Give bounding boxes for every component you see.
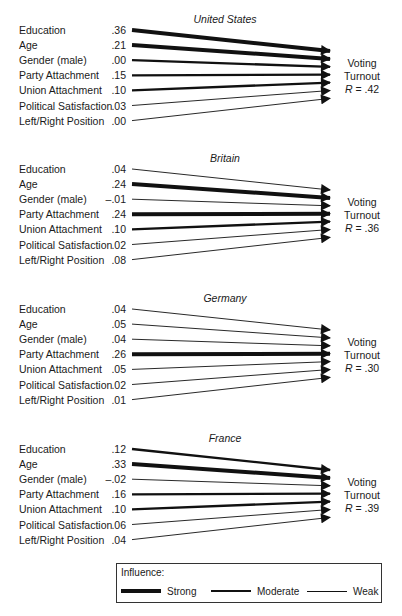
coefficient-value: .03 bbox=[96, 100, 126, 112]
legend: Influence: Strong Moderate Weak bbox=[116, 563, 382, 603]
coefficient-value: .21 bbox=[96, 39, 126, 51]
path-arrow bbox=[132, 479, 330, 486]
predictor-label: Age bbox=[19, 178, 38, 190]
outcome-label-line2: Turnout bbox=[332, 70, 392, 83]
coefficient-value: .04 bbox=[96, 534, 126, 546]
legend-title: Influence: bbox=[121, 567, 164, 578]
predictor-label: Union Attachment bbox=[19, 223, 102, 235]
coefficient-value: .10 bbox=[96, 223, 126, 235]
path-arrow bbox=[132, 83, 330, 91]
predictor-label: Union Attachment bbox=[19, 363, 102, 375]
r-value: R = .42 bbox=[332, 83, 392, 96]
outcome-node: VotingTurnoutR = .36 bbox=[332, 196, 392, 235]
panel-title: United States bbox=[155, 13, 295, 25]
coefficient-value: .04 bbox=[96, 303, 126, 315]
path-arrow bbox=[132, 230, 330, 245]
predictor-label: Education bbox=[19, 24, 66, 36]
path-arrow bbox=[132, 91, 330, 106]
r-value: R = .36 bbox=[332, 222, 392, 235]
legend-item-weak: Weak bbox=[307, 585, 378, 597]
coefficient-value: .15 bbox=[96, 69, 126, 81]
predictor-label: Union Attachment bbox=[19, 84, 102, 96]
coefficient-value: .02 bbox=[96, 239, 126, 251]
panel-title: Britain bbox=[155, 152, 295, 164]
panel-title: Germany bbox=[155, 292, 295, 304]
predictor-label: Gender (male) bbox=[19, 193, 87, 205]
coefficient-value: .26 bbox=[96, 348, 126, 360]
predictor-label: Party Attachment bbox=[19, 69, 99, 81]
coefficient-value: .04 bbox=[96, 333, 126, 345]
coefficient-value: .05 bbox=[96, 318, 126, 330]
legend-item-moderate: Moderate bbox=[211, 585, 299, 597]
outcome-node: VotingTurnoutR = .39 bbox=[332, 476, 392, 515]
coefficient-value: .16 bbox=[96, 488, 126, 500]
path-arrow bbox=[132, 75, 330, 76]
path-arrow bbox=[132, 502, 330, 510]
predictor-label: Left/Right Position bbox=[19, 534, 104, 546]
path-arrow bbox=[132, 377, 330, 399]
panel-title: France bbox=[155, 432, 295, 444]
predictor-label: Age bbox=[19, 458, 38, 470]
predictor-label: Gender (male) bbox=[19, 333, 87, 345]
predictor-label: Left/Right Position bbox=[19, 115, 104, 127]
path-arrow bbox=[132, 184, 330, 198]
path-arrow bbox=[132, 60, 330, 67]
predictor-label: Left/Right Position bbox=[19, 394, 104, 406]
predictor-label: Education bbox=[19, 163, 66, 175]
path-arrow bbox=[132, 362, 330, 370]
coefficient-value: .10 bbox=[96, 503, 126, 515]
path-arrow bbox=[132, 370, 330, 385]
coefficient-value: .10 bbox=[96, 84, 126, 96]
r-value: R = .39 bbox=[332, 502, 392, 515]
path-arrow bbox=[132, 222, 330, 230]
path-arrow bbox=[132, 339, 330, 346]
coefficient-value: .05 bbox=[96, 363, 126, 375]
predictor-label: Left/Right Position bbox=[19, 254, 104, 266]
coefficient-value: .00 bbox=[96, 54, 126, 66]
coefficient-value: .01 bbox=[96, 394, 126, 406]
path-arrow bbox=[132, 98, 330, 120]
weak-line-icon bbox=[307, 591, 347, 592]
predictor-label: Party Attachment bbox=[19, 208, 99, 220]
coefficient-value: .24 bbox=[96, 208, 126, 220]
coefficient-value: .12 bbox=[96, 443, 126, 455]
predictor-label: Age bbox=[19, 39, 38, 51]
coefficient-value: .00 bbox=[96, 115, 126, 127]
coefficient-value: .02 bbox=[96, 379, 126, 391]
path-arrow bbox=[132, 494, 330, 495]
outcome-label-line1: Voting bbox=[332, 196, 392, 209]
coefficient-value: .36 bbox=[96, 24, 126, 36]
predictor-label: Gender (male) bbox=[19, 54, 87, 66]
legend-item-strong: Strong bbox=[121, 585, 196, 597]
outcome-label-line1: Voting bbox=[332, 57, 392, 70]
coefficient-value: –.01 bbox=[96, 193, 126, 205]
path-arrow bbox=[132, 237, 330, 259]
legend-label-weak: Weak bbox=[353, 586, 378, 597]
path-arrow bbox=[132, 517, 330, 539]
predictor-label: Education bbox=[19, 443, 66, 455]
predictor-label: Party Attachment bbox=[19, 348, 99, 360]
outcome-label-line2: Turnout bbox=[332, 209, 392, 222]
path-arrow bbox=[132, 354, 330, 355]
outcome-node: VotingTurnoutR = .42 bbox=[332, 57, 392, 96]
predictor-label: Age bbox=[19, 318, 38, 330]
r-value: R = .30 bbox=[332, 362, 392, 375]
predictor-label: Education bbox=[19, 303, 66, 315]
legend-label-strong: Strong bbox=[167, 586, 196, 597]
outcome-label-line2: Turnout bbox=[332, 349, 392, 362]
predictor-label: Party Attachment bbox=[19, 488, 99, 500]
path-arrow bbox=[132, 199, 330, 206]
arrows-layer bbox=[132, 30, 330, 540]
legend-label-moderate: Moderate bbox=[257, 586, 299, 597]
outcome-label-line2: Turnout bbox=[332, 489, 392, 502]
coefficient-value: .04 bbox=[96, 163, 126, 175]
moderate-line-icon bbox=[211, 590, 251, 592]
path-arrow bbox=[132, 324, 330, 338]
predictor-label: Gender (male) bbox=[19, 473, 87, 485]
path-arrow bbox=[132, 510, 330, 525]
coefficient-value: .08 bbox=[96, 254, 126, 266]
coefficient-value: .24 bbox=[96, 178, 126, 190]
outcome-label-line1: Voting bbox=[332, 476, 392, 489]
coefficient-value: .33 bbox=[96, 458, 126, 470]
outcome-node: VotingTurnoutR = .30 bbox=[332, 336, 392, 375]
